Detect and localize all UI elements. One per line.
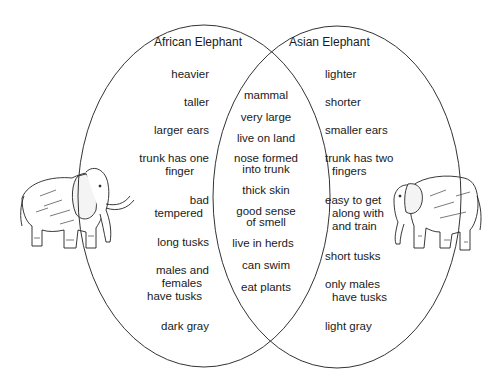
asian-trait-smaller-ears: smaller ears xyxy=(325,124,388,137)
trait-text: larger ears xyxy=(154,124,209,136)
asian-trait-light-gray: light gray xyxy=(325,320,372,333)
trait-text: short tusks xyxy=(325,250,381,262)
trait-text: males and xyxy=(147,264,209,277)
trait-text: tempered xyxy=(154,207,209,220)
trait-text: very large xyxy=(241,111,292,123)
african-trait-taller: taller xyxy=(184,96,209,109)
trait-text: eat plants xyxy=(241,281,291,293)
asian-elephant-title: Asian Elephant xyxy=(289,36,370,49)
african-trait-heavier: heavier xyxy=(171,68,209,81)
african-elephant-illustration xyxy=(21,168,134,248)
trait-text: of smell xyxy=(216,217,316,228)
shared-trait-nose-trunk: nose formed into trunk xyxy=(216,153,316,175)
trait-text: smaller ears xyxy=(325,124,388,136)
asian-trait-shorter: shorter xyxy=(325,96,361,109)
asian-trait-only-males-tusks: only males have tusks xyxy=(325,278,387,304)
african-trait-both-sexes-tusks: males and females have tusks xyxy=(147,264,209,303)
shared-trait-sense-of-smell: good sense of smell xyxy=(216,206,316,228)
trait-text: heavier xyxy=(171,68,209,80)
african-trait-bad-tempered: bad tempered xyxy=(154,194,209,220)
asian-trait-trunk-two-fingers: trunk has two fingers xyxy=(325,152,393,178)
trait-text: along with xyxy=(325,207,384,220)
trait-text: can swim xyxy=(242,259,290,271)
trait-text: females xyxy=(147,277,209,290)
shared-trait-live-in-herds: live in herds xyxy=(213,237,313,250)
african-trait-long-tusks: long tusks xyxy=(157,236,209,249)
venn-diagram: African Elephant Asian Elephant heavier … xyxy=(0,0,494,386)
african-trait-larger-ears: larger ears xyxy=(154,124,209,137)
trait-text: thick skin xyxy=(242,184,289,196)
trait-text: mammal xyxy=(244,89,288,101)
trait-text: only males xyxy=(325,278,387,291)
trait-text: long tusks xyxy=(157,236,209,248)
shared-trait-mammal: mammal xyxy=(216,89,316,102)
asian-trait-lighter: lighter xyxy=(325,68,356,81)
trait-text: shorter xyxy=(325,96,361,108)
trait-text: into trunk xyxy=(216,164,316,175)
trait-text: have tusks xyxy=(325,291,387,304)
trait-text: finger xyxy=(139,165,209,178)
asian-trait-short-tusks: short tusks xyxy=(325,250,381,263)
shared-trait-can-swim: can swim xyxy=(216,259,316,272)
trait-text: lighter xyxy=(325,68,356,80)
trait-text: dark gray xyxy=(161,320,209,332)
asian-trait-easy-to-train: easy to get along with and train xyxy=(325,194,384,233)
trait-text: live in herds xyxy=(232,237,293,249)
shared-trait-live-on-land: live on land xyxy=(216,132,316,145)
trait-text: live on land xyxy=(237,132,295,144)
african-trait-dark-gray: dark gray xyxy=(161,320,209,333)
shared-trait-very-large: very large xyxy=(216,111,316,124)
trait-text: taller xyxy=(184,96,209,108)
shared-trait-eat-plants: eat plants xyxy=(216,281,316,294)
asian-elephant-illustration xyxy=(394,176,481,250)
trait-text: light gray xyxy=(325,320,372,332)
trait-text: fingers xyxy=(325,165,393,178)
trait-text: trunk has two xyxy=(325,152,393,165)
shared-trait-thick-skin: thick skin xyxy=(216,184,316,197)
african-elephant-title: African Elephant xyxy=(154,36,242,49)
trait-text: bad xyxy=(154,194,209,207)
trait-text: and train xyxy=(325,220,384,233)
trait-text: have tusks xyxy=(147,290,209,303)
trait-text: trunk has one xyxy=(139,152,209,165)
african-trait-trunk-one-finger: trunk has one finger xyxy=(139,152,209,178)
trait-text: easy to get xyxy=(325,194,384,207)
